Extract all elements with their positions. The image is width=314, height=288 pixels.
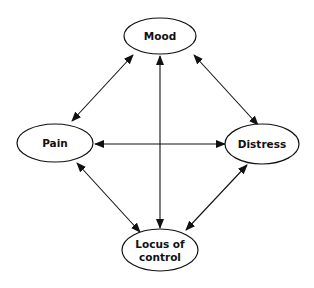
relationship-diagram: MoodPainDistressLocus ofcontrol (0, 0, 314, 288)
node-locus: Locus ofcontrol (122, 229, 198, 271)
node-locus-label: Locus of (135, 238, 185, 250)
node-distress-label: Distress (238, 138, 286, 150)
edge-mood-distress-arrow (194, 55, 258, 125)
node-pain: Pain (17, 124, 93, 162)
diagram-canvas: MoodPainDistressLocus ofcontrol (0, 0, 314, 288)
node-locus-label: control (139, 251, 181, 263)
node-mood-label: Mood (144, 30, 176, 42)
edge-pain-locus-arrow (77, 163, 140, 232)
node-pain-label: Pain (42, 137, 68, 149)
node-mood: Mood (124, 18, 196, 54)
node-distress: Distress (225, 124, 299, 164)
edge-distress-locus-arrow (186, 165, 247, 230)
edge-pain-mood-arrow (72, 55, 133, 121)
